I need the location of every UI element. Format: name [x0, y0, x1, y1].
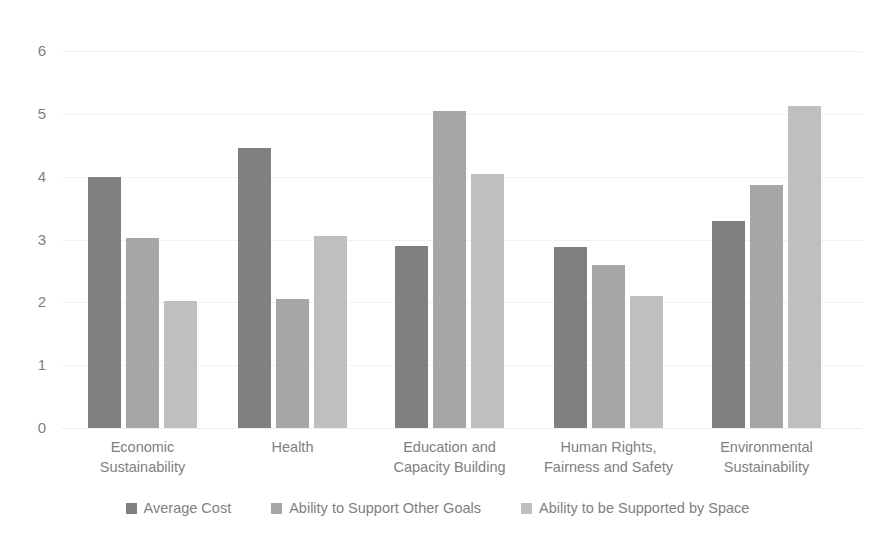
- bar: [314, 236, 347, 428]
- legend-swatch-icon: [271, 503, 282, 514]
- gridline-0: [62, 428, 862, 429]
- bar: [788, 106, 821, 428]
- y-tick-label-0: 0: [18, 420, 46, 435]
- legend-swatch-icon: [126, 503, 137, 514]
- bar: [554, 247, 587, 428]
- y-tick-label-1: 1: [18, 357, 46, 372]
- bar-group: [712, 51, 821, 428]
- bar: [238, 148, 271, 428]
- bar: [471, 174, 504, 428]
- bar: [592, 265, 625, 428]
- legend-label: Ability to Support Other Goals: [289, 500, 481, 516]
- y-tick-label-3: 3: [18, 232, 46, 247]
- legend-item[interactable]: Average Cost: [126, 500, 232, 516]
- bar: [88, 177, 121, 428]
- y-tick-label-5: 5: [18, 106, 46, 121]
- bar-group: [238, 51, 347, 428]
- y-tick-label-4: 4: [18, 169, 46, 184]
- bar-group: [554, 51, 663, 428]
- bar-group: [88, 51, 197, 428]
- bar: [126, 238, 159, 428]
- bar: [712, 221, 745, 428]
- bar: [433, 111, 466, 428]
- bar: [630, 296, 663, 428]
- bar: [276, 299, 309, 428]
- bar-chart: 6543210 Economic SustainabilityHealthEdu…: [0, 0, 875, 556]
- chart-title-clipped: [0, 0, 875, 7]
- legend-item[interactable]: Ability to Support Other Goals: [271, 500, 481, 516]
- bar: [395, 246, 428, 428]
- legend-label: Average Cost: [144, 500, 232, 516]
- legend-label: Ability to be Supported by Space: [539, 500, 749, 516]
- x-category-label: Environmental Sustainability: [672, 437, 861, 477]
- chart-legend: Average CostAbility to Support Other Goa…: [0, 500, 875, 516]
- y-tick-label-6: 6: [18, 43, 46, 58]
- bar: [750, 185, 783, 428]
- y-tick-label-2: 2: [18, 294, 46, 309]
- plot-area: [62, 51, 862, 428]
- legend-item[interactable]: Ability to be Supported by Space: [521, 500, 749, 516]
- legend-swatch-icon: [521, 503, 532, 514]
- bar: [164, 301, 197, 428]
- bar-group: [395, 51, 504, 428]
